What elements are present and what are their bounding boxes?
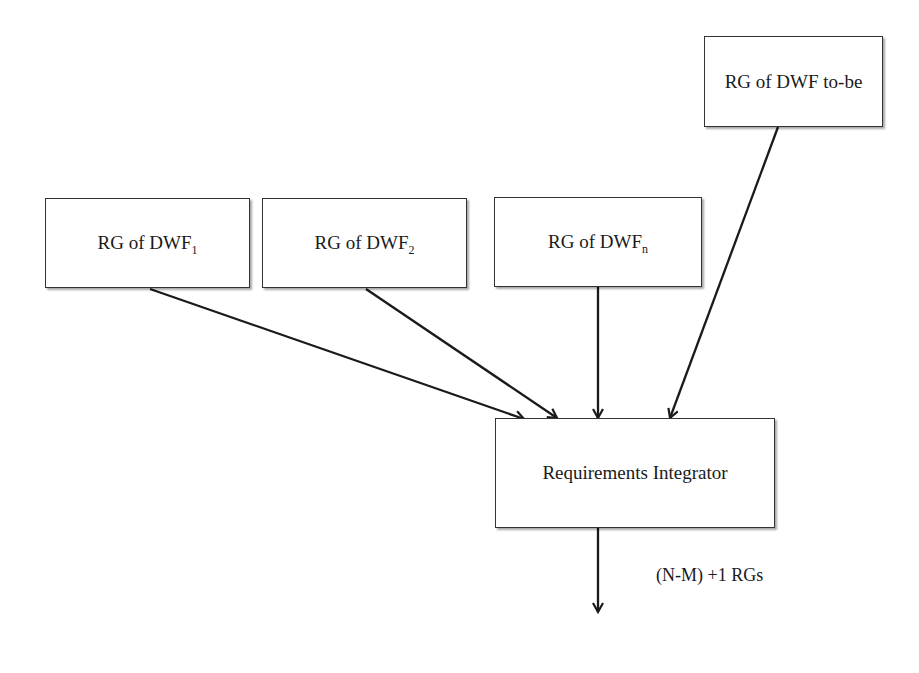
node-label: Requirements Integrator xyxy=(542,462,727,484)
node-requirements-integrator: Requirements Integrator xyxy=(495,418,775,528)
node-rg-dwf-2: RG of DWF2 xyxy=(262,198,467,288)
node-rg-dwf-n: RG of DWFn xyxy=(494,197,702,287)
node-rg-dwf-1: RG of DWF1 xyxy=(45,198,250,288)
arrow-rg1-to-integrator xyxy=(150,289,524,419)
output-label: (N-M) +1 RGs xyxy=(656,565,763,586)
node-label: RG of DWF1 xyxy=(98,232,198,254)
node-label: RG of DWF2 xyxy=(315,232,415,254)
node-label: RG of DWFn xyxy=(548,231,648,253)
arrow-rg2-to-integrator xyxy=(366,289,557,418)
node-rg-dwf-to-be: RG of DWF to-be xyxy=(704,36,883,127)
node-label: RG of DWF to-be xyxy=(725,71,863,93)
